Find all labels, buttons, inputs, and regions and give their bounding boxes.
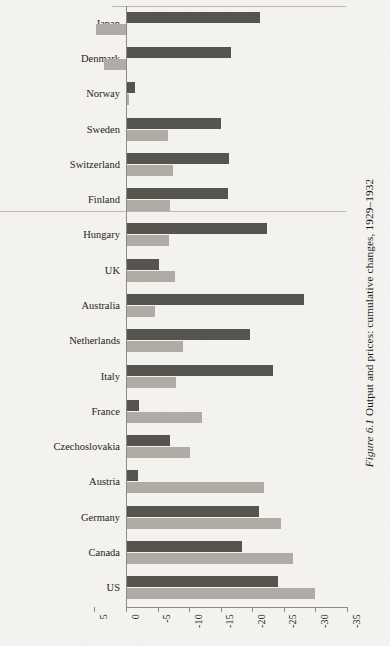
category-label: Switzerland [2,159,120,170]
axis-tick-label: -20 [257,614,267,628]
bar-output [126,329,250,340]
category-label: Hungary [2,229,120,240]
bar-prices [126,447,190,458]
bar-group [126,112,348,147]
bar-output [126,259,159,270]
bar-output [126,435,170,446]
axis-tick-label: -25 [288,614,298,628]
category-label: Norway [2,88,120,99]
bar-output [126,541,242,552]
category-label: US [2,582,120,593]
axis-tick-label: -5 [162,614,172,623]
category-label: Sweden [2,124,120,135]
bar-prices [126,306,155,317]
category-label: Austria [2,476,120,487]
bar-prices [126,271,175,282]
bar-group [126,253,348,288]
bar-prices [126,553,293,564]
bar-group [126,500,348,535]
zero-axis-line [126,6,127,607]
axis-tick-label: -10 [194,614,204,628]
bar-group [126,147,348,182]
bar-prices [126,165,173,176]
bar-prices [126,377,176,388]
bar-output [126,188,228,199]
bar-prices [126,588,315,599]
bar-group [126,430,348,465]
bar-output [126,576,278,587]
bar-chart: JapanDenmarkNorwaySwedenSwitzerlandFinla… [0,0,348,646]
bar-group [126,359,348,394]
bar-output [126,82,135,93]
bar-prices [126,130,168,141]
bar-output [126,470,138,481]
bar-output [126,294,304,305]
axis-tick [284,607,285,612]
category-label: UK [2,265,120,276]
axis-tick [189,607,190,612]
bar-group [126,571,348,606]
bar-group [126,465,348,500]
figure-caption-text: Figure 6.1 Output and prices: cumulative… [363,179,375,467]
bar-group [126,288,348,323]
bar-group [126,218,348,253]
category-label: Canada [2,547,120,558]
category-label: France [2,406,120,417]
bar-output [126,153,229,164]
axis-tick-label: 0 [131,614,141,619]
bar-prices [96,24,126,35]
value-axis-line [126,607,347,608]
axis-tick [252,607,253,612]
bar-group [126,535,348,570]
bar-output [126,118,221,129]
category-label: Italy [2,371,120,382]
figure-number: Figure 6.1 [363,419,375,467]
category-label: Netherlands [2,335,120,346]
figure-caption: Figure 6.1 Output and prices: cumulative… [348,0,390,646]
axis-tick-label: -30 [320,614,330,628]
bar-prices [126,518,281,529]
axis-tick [315,607,316,612]
category-label: Finland [2,194,120,205]
category-label: Germany [2,512,120,523]
plot-area [126,6,348,606]
figure-caption-body: Output and prices: cumulative changes, 1… [363,179,375,416]
bar-group [126,6,348,41]
bar-prices [126,482,264,493]
bar-prices [126,412,202,423]
axis-tick [158,607,159,612]
bar-group [126,182,348,217]
bar-prices [104,59,126,70]
bar-group [126,394,348,429]
bar-output [126,506,259,517]
bar-output [126,365,273,376]
bar-prices [126,200,170,211]
category-label: Australia [2,300,120,311]
bar-group [126,41,348,76]
category-label: Denmark [2,53,120,64]
axis-tick [221,607,222,612]
bar-output [126,223,267,234]
axis-tick-label: -15 [225,614,235,628]
bar-output [126,12,260,23]
bar-output [126,400,139,411]
category-axis-labels: JapanDenmarkNorwaySwedenSwitzerlandFinla… [0,6,120,606]
figure-page: JapanDenmarkNorwaySwedenSwitzerlandFinla… [0,0,390,646]
bar-prices [126,235,169,246]
axis-tick [94,607,95,612]
axis-tick-label: 5 [99,614,109,619]
bar-prices [126,341,183,352]
bar-output [126,47,231,58]
bar-group [126,77,348,112]
bar-group [126,324,348,359]
category-label: Czechoslovakia [2,441,120,452]
axis-tick [126,607,127,612]
